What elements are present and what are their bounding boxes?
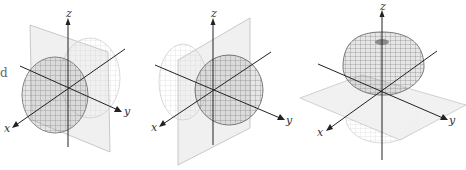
z-axis-label: z	[65, 7, 72, 20]
y-axis-label: y	[285, 114, 293, 127]
orbital-panel-x: z y x	[0, 0, 150, 170]
orbital-panel-z: z y x	[300, 0, 466, 170]
x-axis-label: x	[151, 121, 158, 134]
z-axis-label: z	[210, 7, 217, 20]
y-axis-label: y	[123, 105, 131, 118]
orbital-panel-y: z y x	[145, 0, 305, 170]
y-axis-label: y	[448, 114, 456, 127]
x-axis-label: x	[317, 126, 324, 139]
z-axis-label: z	[379, 0, 386, 13]
x-axis-label: x	[4, 122, 11, 135]
